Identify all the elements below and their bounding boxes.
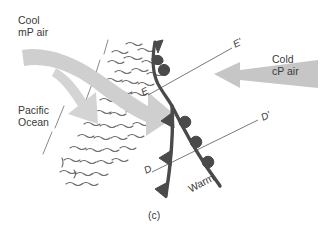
label-cold-cp-air: Cold cP air bbox=[272, 53, 299, 78]
warm-front-semicircle-2 bbox=[190, 136, 202, 148]
cold-front-triangle-3 bbox=[155, 182, 168, 198]
warm-front-semicircle-3 bbox=[202, 156, 214, 168]
warm-front-semicircle-1 bbox=[179, 116, 191, 128]
occluded-front-semicircle-2 bbox=[158, 64, 169, 75]
weather-front-diagram: Cool mP air Pacific Ocean Cold cP air E … bbox=[0, 0, 321, 233]
occluded-front-triangle bbox=[154, 40, 163, 53]
label-cool-mp-air: Cool mP air bbox=[18, 14, 48, 39]
occluded-front-semicircle bbox=[152, 55, 163, 65]
figure-caption: (c) bbox=[148, 209, 160, 221]
label-pacific-ocean: Pacific Ocean bbox=[18, 104, 49, 129]
cold-front-triangle-1 bbox=[161, 112, 174, 128]
cold-front-triangle-2 bbox=[159, 150, 172, 166]
